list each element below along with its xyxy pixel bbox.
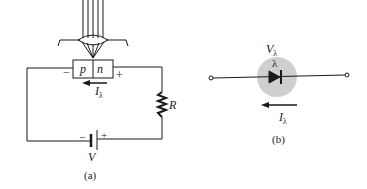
caption-b: (b)	[272, 133, 285, 146]
battery-label: V	[88, 150, 97, 164]
terminal-left	[209, 76, 213, 80]
n-label: n	[97, 62, 103, 76]
p-label: p	[79, 62, 86, 76]
current-label-a: Iλ	[94, 84, 103, 100]
lambda-label: λ	[272, 57, 278, 69]
battery-plus: +	[101, 129, 107, 141]
light-rays-icon	[83, 0, 103, 38]
junction-minus: −	[63, 65, 70, 79]
resistor-icon	[158, 92, 166, 117]
current-label-b: Iλ	[278, 110, 287, 126]
focused-rays	[82, 42, 104, 58]
resistor-label: R	[168, 98, 177, 112]
figure-b	[209, 57, 349, 108]
voltage-label: Vλ	[266, 42, 277, 58]
photodiode-diagram: p n − + Iλ R − + V (a) Vλ λ Iλ (b)	[0, 0, 367, 189]
junction-plus: +	[116, 68, 123, 82]
current-arrow-b	[261, 102, 297, 108]
terminal-right	[345, 73, 349, 77]
battery-minus: −	[79, 131, 85, 143]
battery-icon	[91, 130, 97, 150]
caption-a: (a)	[84, 169, 97, 182]
